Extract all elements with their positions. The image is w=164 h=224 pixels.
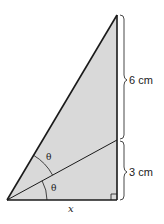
theta-label-lower: θ <box>51 183 56 193</box>
brace-lower <box>120 141 127 200</box>
base-label: x <box>68 203 74 214</box>
theta-label-upper: θ <box>46 152 51 162</box>
brace-upper <box>120 15 127 139</box>
upper-segment-label: 6 cm <box>129 74 153 86</box>
triangle-diagram: θ θ 6 cm 3 cm x <box>0 0 164 224</box>
lower-segment-label: 3 cm <box>129 166 153 178</box>
